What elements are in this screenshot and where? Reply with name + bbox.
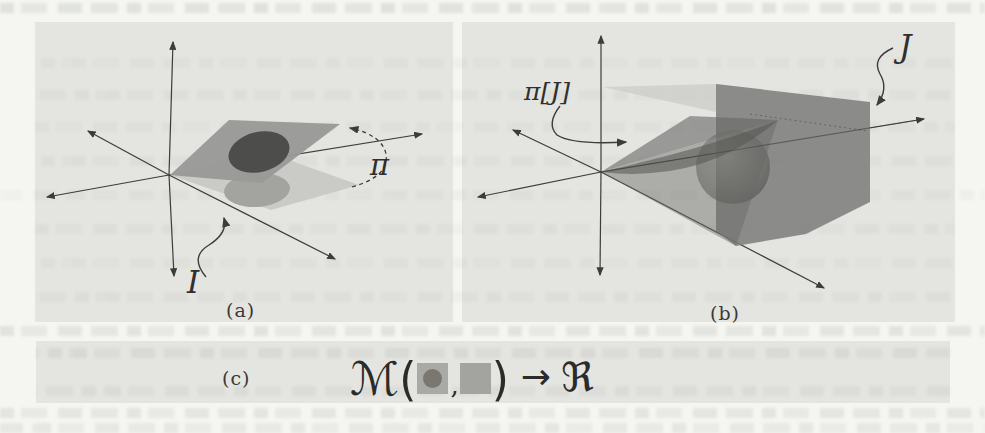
open-paren: ( [399, 358, 416, 400]
i-pointer-curve-arrow [198, 218, 225, 277]
maps-to-arrow: → [521, 356, 551, 397]
axis-down-b [600, 172, 601, 275]
measure-formula: ℳ ( , ) → ℜ [350, 355, 594, 402]
axis-down-a [169, 175, 174, 276]
argument-square-with-dot [417, 363, 448, 394]
i-label: I [186, 264, 200, 300]
fraktur-r-symbol: ℜ [561, 354, 594, 400]
caption-c: (c) [222, 367, 250, 389]
scanned-figure-page: π I π[J] J (a) (b) (c) ℳ ( , [0, 0, 985, 433]
axis-upper-left-a [88, 131, 169, 175]
axis-left-b [478, 172, 601, 197]
caption-b: (b) [710, 302, 740, 324]
projected-plane-light-triangle [603, 84, 716, 112]
close-paren: ) [492, 358, 509, 400]
argument-square-plain [460, 363, 491, 394]
axis-upper-left-b [513, 130, 601, 172]
caption-a: (a) [226, 299, 255, 321]
comma: , [450, 370, 458, 400]
dot-in-square [423, 369, 442, 388]
axis-up-a [169, 42, 173, 175]
j-label: J [893, 28, 913, 64]
pij-label: π[J] [523, 77, 570, 106]
script-m-symbol: ℳ [350, 359, 399, 399]
pi-label: π [369, 148, 390, 182]
axis-left-a [47, 175, 169, 197]
pij-pointer-curve-arrow [552, 106, 626, 143]
j-pointer-curve-arrow [877, 48, 893, 105]
